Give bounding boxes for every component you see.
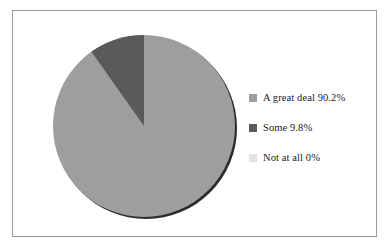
legend-swatch-icon-a-great-deal (249, 94, 257, 102)
legend: A great deal 90.2% Some 9.8% Not at all … (249, 83, 374, 173)
legend-label-not-at-all: Not at all 0% (263, 152, 320, 164)
legend-label-some: Some 9.8% (263, 122, 312, 134)
legend-swatch-icon-not-at-all (249, 154, 257, 162)
pie-chart (41, 25, 237, 223)
legend-item-some[interactable]: Some 9.8% (249, 113, 374, 143)
legend-item-a-great-deal[interactable]: A great deal 90.2% (249, 83, 374, 113)
pie-svg (41, 25, 237, 223)
legend-label-a-great-deal: A great deal 90.2% (263, 92, 345, 104)
legend-swatch-icon-some (249, 124, 257, 132)
chart-frame: A great deal 90.2% Some 9.8% Not at all … (12, 10, 377, 237)
legend-item-not-at-all[interactable]: Not at all 0% (249, 143, 374, 173)
